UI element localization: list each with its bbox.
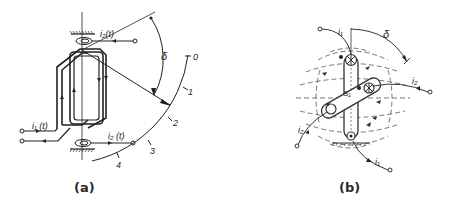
label-i1-a: i₁ (t) (32, 121, 48, 131)
label-i2-bottom-a: i₂ (t) (108, 131, 124, 141)
label-delta-a: δ (161, 50, 168, 62)
label-i2-left-b: i₂ (298, 125, 304, 135)
label-i1-top-b: i₁ (338, 27, 343, 37)
caption-b: (b) (339, 180, 360, 195)
scale-label-4: 4 (116, 160, 121, 170)
label-delta-b: δ (383, 28, 390, 40)
caption-a: (a) (74, 180, 95, 195)
scale-label-3: 3 (150, 146, 155, 156)
label-i2-right-b: i₂ (412, 76, 418, 86)
scale-label-1: 1 (188, 87, 193, 97)
label-i1-bottom-b: i₁ (375, 157, 380, 167)
scale-label-2: 2 (172, 118, 178, 128)
label-s1-b: S₁ (343, 89, 351, 98)
panel-b-drawing (295, 27, 432, 172)
electrodynamometer-diagram: i₁ (t) i₂(t) i₂ (t) δ 0 1 2 3 4 (0, 0, 451, 211)
label-i2-top-a: i₂(t) (100, 29, 114, 39)
scale-label-0: 0 (193, 52, 198, 62)
